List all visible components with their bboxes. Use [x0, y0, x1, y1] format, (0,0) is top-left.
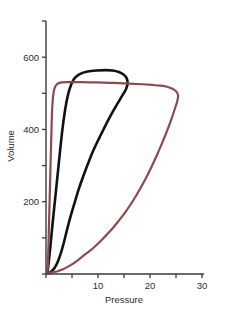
x-tick-label: 30: [197, 280, 208, 291]
x-tick-label: 10: [93, 280, 104, 291]
y-axis-title: Volume: [5, 130, 16, 162]
y-tick-label: 200: [23, 196, 39, 207]
y-axis: 200400600: [23, 21, 46, 274]
series-group: [48, 70, 179, 273]
x-axis-title: Pressure: [105, 294, 143, 305]
y-tick-label: 400: [23, 124, 39, 135]
plot-area: 102030 200400600 Pressure Volume: [0, 0, 245, 318]
x-axis: 102030: [46, 274, 207, 291]
series-black-loop: [48, 70, 128, 273]
y-tick-label: 600: [23, 52, 39, 63]
chart-figure: 102030 200400600 Pressure Volume: [0, 0, 245, 318]
x-tick-label: 20: [145, 280, 156, 291]
